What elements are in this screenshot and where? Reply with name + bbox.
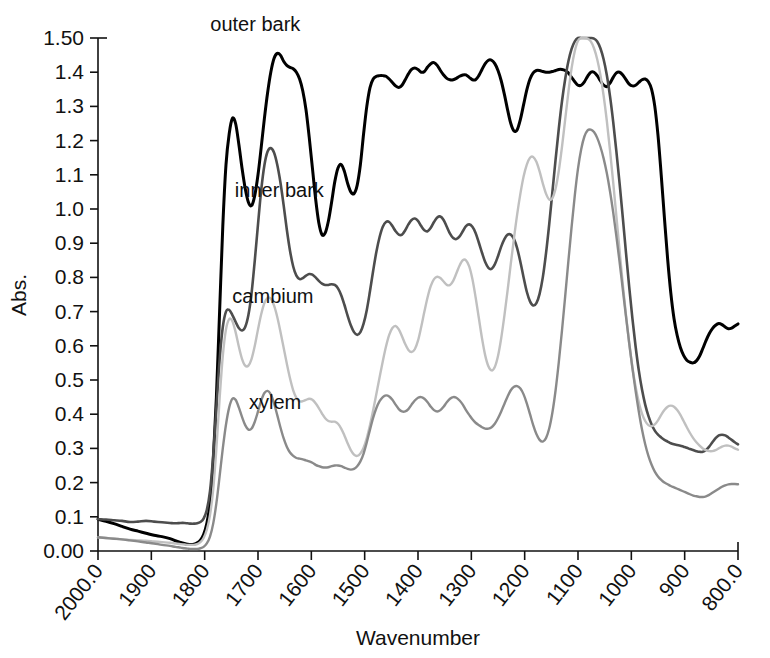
series-label-inner-bark: inner bark — [235, 179, 325, 201]
spectra-lines — [98, 38, 738, 549]
x-tick-label: 900 — [654, 559, 694, 601]
y-tick-label: 1.1 — [55, 163, 84, 186]
series-label-xylem: xylem — [249, 391, 301, 413]
axes — [90, 38, 738, 560]
x-tick-label: 1700 — [220, 559, 267, 610]
series-annotations: outer barkinner barkcambiumxylem — [210, 13, 324, 413]
spectrum-line-cambium — [98, 38, 738, 545]
x-tick-label: 1100 — [541, 559, 587, 609]
y-tick-label: 1.3 — [55, 94, 84, 117]
y-tick-label: 0.5 — [55, 368, 84, 391]
series-label-outer-bark: outer bark — [210, 13, 301, 35]
y-tick-label: 0.8 — [55, 265, 84, 288]
x-tick-label: 800.0 — [697, 559, 747, 615]
x-axis-title: Wavenumber — [356, 626, 480, 649]
x-tick-label: 1000 — [594, 559, 641, 610]
x-tick-label: 1900 — [114, 559, 161, 610]
y-tick-label: 0.2 — [55, 471, 84, 494]
x-tick-label: 1300 — [434, 559, 481, 610]
y-tick-label: 0.1 — [55, 505, 84, 528]
y-tick-label: 0.3 — [55, 436, 84, 459]
spectrum-line-inner-bark — [98, 38, 738, 524]
ftir-spectra-figure: 0.000.10.20.30.40.50.60.70.80.91.01.11.2… — [0, 0, 770, 658]
spectra-chart: 0.000.10.20.30.40.50.60.70.80.91.01.11.2… — [0, 0, 770, 658]
x-tick-label: 1600 — [274, 559, 321, 610]
x-tick-label: 1500 — [327, 559, 374, 610]
y-tick-label: 0.00 — [43, 539, 84, 562]
x-tick-label: 1800 — [167, 559, 214, 610]
y-tick-label: 1.50 — [43, 26, 84, 49]
x-tick-label: 1400 — [380, 559, 427, 610]
y-tick-label: 0.6 — [55, 334, 84, 357]
x-tick-label: 1200 — [487, 559, 534, 610]
y-tick-label: 1.4 — [55, 60, 85, 83]
y-tick-label: 1.2 — [55, 129, 84, 152]
spectrum-line-outer-bark — [98, 53, 738, 544]
series-label-cambium: cambium — [232, 285, 313, 307]
x-tick-label: 2000.0 — [49, 559, 107, 624]
y-tick-label: 0.7 — [55, 300, 84, 323]
y-tick-label: 0.9 — [55, 231, 84, 254]
y-tick-label: 1.0 — [55, 197, 84, 220]
y-tick-label: 0.4 — [55, 402, 85, 425]
y-axis-title: Abs. — [7, 274, 30, 316]
